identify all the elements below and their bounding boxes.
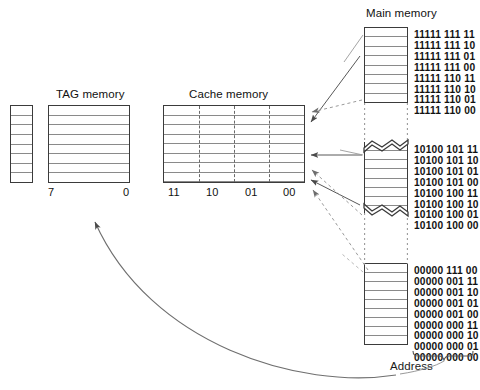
main-memory-row xyxy=(365,206,407,214)
tag-memory-title: TAG memory xyxy=(56,88,125,100)
address-label: Address xyxy=(390,360,433,372)
cache-memory-row xyxy=(164,144,304,154)
main-memory-row xyxy=(365,291,407,300)
main-memory-row xyxy=(365,179,407,188)
cache-memory-row xyxy=(164,163,304,173)
tag-memory-row xyxy=(49,154,129,164)
mapping-arrows-solid xyxy=(311,56,362,205)
address-list-low: 00000 111 00 00000 001 11 00000 001 10 0… xyxy=(414,266,479,364)
main-memory-row xyxy=(365,197,407,206)
connector-overlay xyxy=(0,0,480,390)
tag-memory-row xyxy=(49,116,129,126)
main-memory-row xyxy=(365,169,407,178)
tag-memory-row xyxy=(49,173,129,182)
tag-memory-block xyxy=(48,105,130,183)
low-block-leader xyxy=(342,254,363,272)
main-memory-row xyxy=(365,336,407,344)
tag-memory-row xyxy=(49,164,129,174)
cache-memory-row xyxy=(164,135,304,145)
cache-mapping-diagram: Main memory TAG memory Cache memory 7 0 … xyxy=(0,0,480,390)
cache-memory-block xyxy=(163,105,305,183)
tag-memory-row xyxy=(49,145,129,155)
main-memory-row xyxy=(365,309,407,318)
main-memory-row xyxy=(365,151,407,160)
main-memory-row xyxy=(365,66,407,75)
main-memory-row xyxy=(365,142,407,151)
address-list-high: 11111 111 11 11111 111 10 11111 111 01 1… xyxy=(414,30,476,117)
cache-memory-row xyxy=(164,154,304,164)
main-memory-row xyxy=(365,327,407,336)
main-memory-row xyxy=(365,75,407,84)
main-memory-row xyxy=(365,282,407,291)
cache-col-label-3: 00 xyxy=(283,186,295,198)
cache-memory-row xyxy=(164,116,304,126)
main-memory-row xyxy=(365,94,407,102)
main-memory-block-high xyxy=(364,27,408,103)
main-memory-row xyxy=(365,188,407,197)
tag-memory-row xyxy=(49,135,129,145)
main-memory-row xyxy=(365,318,407,327)
cache-memory-row xyxy=(164,173,304,183)
cache-col-label-2: 01 xyxy=(245,186,257,198)
main-memory-title: Main memory xyxy=(366,7,437,19)
tag-bit-label-high: 7 xyxy=(48,186,54,198)
valid-bit-cell xyxy=(11,145,32,155)
valid-bit-column xyxy=(10,105,33,183)
tag-bit-label-low: 0 xyxy=(123,186,129,198)
address-to-tag-arrow xyxy=(95,222,396,378)
valid-bit-cell xyxy=(11,164,32,174)
middle-block-leader xyxy=(340,150,363,155)
cache-memory-row xyxy=(164,106,304,116)
cache-memory-title: Cache memory xyxy=(189,88,268,100)
cache-col-label-1: 10 xyxy=(206,186,218,198)
cache-memory-row xyxy=(164,125,304,135)
valid-bit-cell xyxy=(11,106,32,116)
valid-bit-cell xyxy=(11,154,32,164)
main-memory-row xyxy=(365,56,407,65)
main-memory-row xyxy=(365,273,407,282)
main-memory-block-middle xyxy=(364,142,408,214)
main-memory-row xyxy=(365,160,407,169)
tag-memory-row xyxy=(49,125,129,135)
main-memory-row xyxy=(365,300,407,309)
tag-memory-row xyxy=(49,106,129,116)
valid-bit-cell xyxy=(11,135,32,145)
main-memory-row xyxy=(365,37,407,46)
valid-bit-cell xyxy=(11,125,32,135)
main-memory-row xyxy=(365,264,407,273)
address-list-middle: 10100 101 11 10100 101 10 10100 101 01 1… xyxy=(414,145,479,232)
valid-bit-cell xyxy=(11,173,32,182)
mapping-arrows-dashed xyxy=(312,100,368,270)
main-memory-row xyxy=(365,47,407,56)
main-memory-row xyxy=(365,28,407,37)
cache-col-label-0: 11 xyxy=(168,186,180,198)
high-block-leader xyxy=(344,35,363,62)
main-memory-row xyxy=(365,84,407,93)
valid-bit-cell xyxy=(11,116,32,126)
main-memory-block-low xyxy=(364,263,408,345)
